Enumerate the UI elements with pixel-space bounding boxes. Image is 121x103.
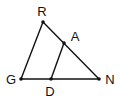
label-n: N xyxy=(105,72,114,87)
segment-rg xyxy=(21,22,43,79)
segments xyxy=(21,22,99,79)
label-d: D xyxy=(45,84,54,99)
vertex-d xyxy=(49,77,53,81)
label-r: R xyxy=(37,4,46,19)
label-g: G xyxy=(6,72,16,87)
triangle-diagram: RAGDN xyxy=(0,0,121,103)
vertex-g xyxy=(19,77,23,81)
segment-ad xyxy=(51,43,64,79)
vertex-r xyxy=(41,20,45,24)
vertex-a xyxy=(62,41,66,45)
vertex-n xyxy=(97,77,101,81)
label-a: A xyxy=(71,29,80,44)
